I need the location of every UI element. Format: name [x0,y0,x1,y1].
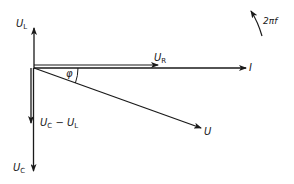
phasor-diagram [0,0,294,184]
label-rotation: 2πf [263,17,277,26]
label-ucul-sub: C [47,122,52,130]
label-u-r: UR [154,53,166,63]
rotation-arrow [251,11,262,36]
label-i: I [249,63,252,73]
label-u-c-sub: C [20,167,25,175]
label-u-c-minus-u-l: UC − UL [40,118,78,128]
phi-symbol: φ [66,68,73,79]
label-u-l: UL [16,19,27,29]
label-u: U [204,127,211,137]
label-u-main: U [204,126,211,137]
rotation-label: 2πf [263,16,277,26]
label-u-c: UC [13,163,25,173]
label-ucul-mid: − U [52,117,74,128]
label-u-l-sub: L [23,23,27,31]
label-u-r-sub: R [161,57,166,65]
phi-angle-arc [75,68,78,83]
label-ucul-sub2: L [74,122,78,130]
label-i-main: I [249,62,252,73]
label-phi: φ [66,69,73,79]
